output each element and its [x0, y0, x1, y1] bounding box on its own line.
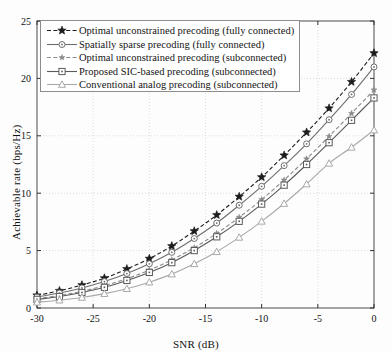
marker-square-dot [126, 280, 128, 282]
legend-marker-star [58, 26, 66, 34]
legend-item-1: Spatially sparse precoding (fully connec… [45, 38, 295, 51]
legend-marker-sample [45, 51, 79, 64]
marker-circle-dot [238, 204, 240, 206]
marker-triangle [191, 260, 198, 266]
y-tick-label: 0 [26, 303, 31, 314]
legend-marker-sample [45, 65, 79, 78]
marker-square-dot [283, 184, 285, 186]
legend-item-2: Optimal unconstrained precoding (subconn… [45, 51, 295, 64]
legend-marker-sample [45, 78, 79, 91]
marker-circle-dot [306, 143, 308, 145]
y-tick-label: 25 [21, 16, 31, 27]
marker-triangle [236, 234, 243, 240]
figure-container: -30-25-20-15-10-500510152025 SNR (dB) Ac… [0, 0, 392, 351]
x-tick-label: -5 [314, 313, 322, 324]
marker-circle-dot [193, 238, 195, 240]
marker-square-dot [328, 142, 330, 144]
marker-triangle [213, 248, 220, 254]
x-tick-label: -20 [143, 313, 156, 324]
marker-square-dot [351, 120, 353, 122]
x-tick-label: -15 [199, 313, 212, 324]
marker-circle-dot [216, 222, 218, 224]
marker-circle-dot [283, 165, 285, 167]
legend-marker-sample [45, 38, 79, 51]
marker-square-dot [306, 164, 308, 166]
x-tick-label: -30 [30, 313, 43, 324]
marker-triangle [168, 271, 175, 277]
y-tick-label: 5 [26, 245, 31, 256]
marker-square-dot [149, 272, 151, 274]
marker-square-dot [261, 203, 263, 205]
legend-marker-circle-dot [61, 43, 63, 45]
chart-legend: Optimal unconstrained precoding (fully c… [40, 20, 300, 92]
marker-square-dot [193, 250, 195, 252]
marker-square-dot [171, 262, 173, 264]
series-line-1 [37, 67, 374, 297]
marker-circle-dot [373, 66, 375, 68]
marker-square-dot [373, 97, 375, 99]
marker-star [168, 242, 176, 250]
marker-circle-dot [261, 185, 263, 187]
marker-star [257, 173, 265, 181]
legend-marker-sample [45, 24, 79, 37]
y-axis-label: Achievable rate (bps/Hz) [10, 125, 22, 240]
legend-label: Spatially sparse precoding (fully connec… [79, 38, 264, 51]
marker-circle-dot [328, 119, 330, 121]
marker-circle-dot [148, 263, 150, 265]
legend-item-3: Proposed SIC-based precoding (subconnect… [45, 65, 295, 78]
marker-triangle [258, 218, 265, 224]
legend-item-0: Optimal unconstrained precoding (fully c… [45, 24, 295, 37]
legend-item-4: Conventional analog precoding (subconnec… [45, 78, 295, 91]
marker-triangle [348, 144, 355, 150]
marker-square-dot [104, 287, 106, 289]
marker-square-dot [238, 221, 240, 223]
y-tick-label: 10 [21, 188, 31, 199]
x-tick-label: -25 [86, 313, 99, 324]
marker-circle-dot [171, 251, 173, 253]
legend-marker-square-dot [61, 70, 63, 72]
y-tick-label: 20 [21, 73, 31, 84]
marker-triangle [326, 160, 333, 166]
legend-label: Optimal unconstrained precoding (subconn… [79, 51, 286, 64]
legend-label: Proposed SIC-based precoding (subconnect… [79, 65, 276, 78]
legend-label: Conventional analog precoding (subconnec… [79, 78, 278, 91]
marker-circle-dot [126, 273, 128, 275]
x-tick-label: -10 [255, 313, 268, 324]
marker-square-dot [216, 236, 218, 238]
legend-label: Optimal unconstrained precoding (fully c… [79, 24, 294, 37]
x-axis-label: SNR (dB) [0, 338, 392, 350]
x-tick-label: 0 [372, 313, 377, 324]
marker-circle-dot [351, 94, 353, 96]
legend-marker-star-small [59, 54, 65, 60]
marker-triangle [371, 126, 378, 132]
y-tick-label: 15 [21, 130, 31, 141]
